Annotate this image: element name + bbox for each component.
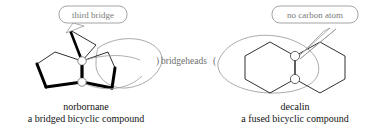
decalin-caption: decalin a fused bicyclic compound: [208, 101, 382, 125]
third-bridge-callout-label: third bridge: [72, 10, 114, 20]
decalin-bridgehead-markers: [290, 51, 299, 83]
no-carbon-atom-callout-tail-second: [300, 29, 336, 59]
norbornane-description: a bridged bicyclic compound: [0, 113, 172, 125]
no-carbon-atom-callout-label: no carbon atom: [287, 10, 343, 20]
no-carbon-atom-callout[interactable]: no carbon atom: [272, 6, 358, 59]
chemistry-figure: third bridge ) bridgeheads (: [0, 0, 382, 136]
decalin-right-ring: [295, 42, 345, 93]
norbornane-bold-bond-front-left: [46, 82, 82, 87]
norbornane-bridgehead-lasso: [96, 39, 162, 88]
norbornane-bold-bond-left: [37, 64, 46, 87]
norbornane-bridgehead-top-marker: [78, 57, 86, 65]
norbornane-structure: [37, 30, 115, 88]
decalin-name: decalin: [208, 101, 382, 113]
bridgeheads-annotation: ) bridgeheads (: [156, 56, 216, 67]
third-bridge-callout[interactable]: third bridge: [59, 6, 127, 33]
decalin-bridgehead-lasso: [218, 35, 319, 93]
norbornane-name: norbornane: [0, 101, 172, 113]
norbornane-caption: norbornane a bridged bicyclic compound: [0, 101, 172, 125]
third-bridge-callout-tail: [66, 23, 84, 33]
norbornane-bridgehead-bottom-marker: [78, 78, 86, 86]
bridgeheads-left-bracket: ): [156, 56, 159, 67]
norbornane-bold-bond-right: [112, 68, 115, 88]
decalin-bridgehead-bottom-marker: [290, 74, 299, 83]
decalin-left-ring: [245, 42, 295, 93]
decalin-bridgehead-top-marker: [290, 51, 299, 60]
no-carbon-atom-callout-tail: [300, 28, 330, 55]
decalin-description: a fused bicyclic compound: [208, 113, 382, 125]
norbornane-third-bridge-bond: [70, 30, 82, 61]
bridgeheads-label: bridgeheads: [161, 56, 207, 66]
bridgeheads-right-bracket: (: [213, 56, 216, 67]
